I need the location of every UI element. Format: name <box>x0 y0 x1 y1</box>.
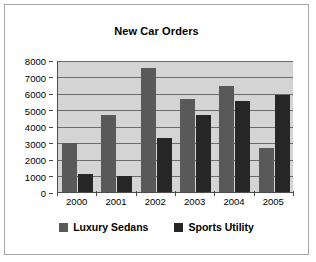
bar-2000-luxury-sedans <box>62 143 77 193</box>
y-axis-tick-mark <box>49 94 53 95</box>
bar-2001-sports-utility <box>117 176 132 192</box>
y-axis-tick-label: 2000 <box>25 155 46 166</box>
chart-legend: Luxury SedansSports Utility <box>5 221 308 233</box>
bar-2002-luxury-sedans <box>141 68 156 192</box>
bar-2005-sports-utility <box>275 95 290 192</box>
chart-container: New Car Orders 0100020003000400050006000… <box>4 4 309 255</box>
y-axis-tick-mark <box>49 160 53 161</box>
y-axis: 010002000300040005000600070008000 <box>5 61 53 192</box>
bar-2000-sports-utility <box>78 174 93 192</box>
bar-2002-sports-utility <box>157 138 172 192</box>
y-axis-tick-label: 6000 <box>25 89 46 100</box>
y-axis-tick-label: 7000 <box>25 72 46 83</box>
y-axis-tick-mark <box>49 61 53 62</box>
x-axis-tick-mark <box>254 191 255 196</box>
x-axis-tick-mark <box>175 191 176 196</box>
bar-2003-luxury-sedans <box>180 99 195 192</box>
legend-item-sports-utility[interactable]: Sports Utility <box>174 221 253 233</box>
bar-group-2004 <box>215 61 254 192</box>
legend-swatch-icon <box>174 223 183 232</box>
y-axis-tick-label: 1000 <box>25 171 46 182</box>
x-axis-tick-label: 2004 <box>223 196 244 207</box>
x-axis-tick-label: 2001 <box>105 196 126 207</box>
x-axis: 200020012002200320042005 <box>57 196 293 212</box>
y-axis-tick-mark <box>49 77 53 78</box>
x-axis-tick-label: 2002 <box>145 196 166 207</box>
x-axis-tick-label: 2000 <box>66 196 87 207</box>
bar-2004-sports-utility <box>235 101 250 192</box>
bar-2005-luxury-sedans <box>259 148 274 192</box>
y-axis-tick-label: 0 <box>41 188 46 199</box>
bar-group-2002 <box>137 61 176 192</box>
legend-label: Sports Utility <box>188 221 253 233</box>
legend-label: Luxury Sedans <box>73 221 148 233</box>
x-axis-tick-label: 2003 <box>184 196 205 207</box>
bar-group-2003 <box>176 61 215 192</box>
bar-group-2005 <box>255 61 294 192</box>
y-axis-tick-mark <box>49 176 53 177</box>
y-axis-tick-label: 4000 <box>25 122 46 133</box>
y-axis-tick-mark <box>49 110 53 111</box>
x-axis-tick-mark <box>293 191 294 196</box>
plot-area <box>57 61 293 193</box>
x-axis-tick-mark <box>214 191 215 196</box>
legend-item-luxury-sedans[interactable]: Luxury Sedans <box>59 221 148 233</box>
x-axis-tick-label: 2005 <box>263 196 284 207</box>
y-axis-tick-label: 5000 <box>25 105 46 116</box>
y-axis-tick-mark <box>49 143 53 144</box>
y-axis-tick-label: 8000 <box>25 56 46 67</box>
x-axis-tick-mark <box>96 191 97 196</box>
x-axis-tick-mark <box>136 191 137 196</box>
x-axis-tick-mark <box>57 191 58 196</box>
bar-group-2001 <box>97 61 136 192</box>
legend-swatch-icon <box>59 223 68 232</box>
bar-2003-sports-utility <box>196 115 211 192</box>
bar-2004-luxury-sedans <box>219 86 234 192</box>
y-axis-tick-mark <box>49 127 53 128</box>
chart-title: New Car Orders <box>5 25 308 37</box>
y-axis-tick-mark <box>49 193 53 194</box>
bar-2001-luxury-sedans <box>101 115 116 192</box>
y-axis-tick-label: 3000 <box>25 138 46 149</box>
bar-group-2000 <box>58 61 97 192</box>
